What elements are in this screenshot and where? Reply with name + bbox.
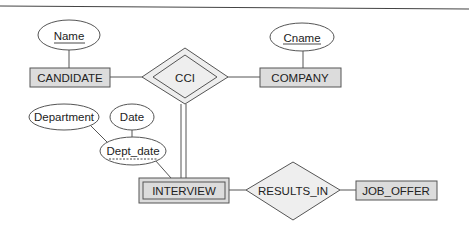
relationship-results-in[interactable]: RESULTS_IN: [246, 162, 340, 220]
attribute-dept-date-label: Dept_date: [106, 145, 159, 157]
entity-interview-label: INTERVIEW: [152, 185, 216, 197]
entity-candidate[interactable]: CANDIDATE: [30, 68, 110, 87]
relationship-results-in-label: RESULTS_IN: [258, 185, 328, 197]
attribute-name-label: Name: [54, 30, 85, 42]
relationship-cci-label: CCI: [175, 72, 195, 84]
attribute-dept-date[interactable]: Dept_date: [100, 137, 166, 165]
entity-job-offer[interactable]: JOB_OFFER: [356, 181, 437, 200]
attribute-name[interactable]: Name: [38, 20, 100, 50]
entity-company[interactable]: COMPANY: [260, 68, 341, 87]
entity-interview[interactable]: INTERVIEW: [139, 178, 229, 203]
entity-company-label: COMPANY: [271, 72, 329, 84]
top-rule: [0, 6, 469, 9]
attribute-date-label: Date: [120, 111, 144, 123]
attribute-cname[interactable]: Cname: [270, 23, 334, 51]
entity-candidate-label: CANDIDATE: [37, 72, 103, 84]
attribute-cname-label: Cname: [283, 32, 320, 44]
attribute-department[interactable]: Department: [29, 104, 99, 130]
attribute-department-label: Department: [34, 111, 95, 123]
er-diagram: Name Cname CANDIDATE COMPANY CCI Departm…: [0, 0, 469, 236]
attribute-date[interactable]: Date: [110, 104, 154, 130]
relationship-cci[interactable]: CCI: [142, 48, 228, 104]
entity-job-offer-label: JOB_OFFER: [362, 185, 430, 197]
